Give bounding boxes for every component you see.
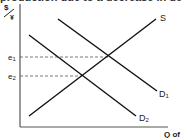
supply-demand-diagram: $ ¥ S D1 D2 e1 e2 Q of [0,0,181,138]
supply-label: S [160,13,166,23]
x-axis-label: Q of [164,130,180,138]
y-axis-label-top: $ [4,3,9,12]
e1-label: e1 [8,53,16,62]
d2-label: D2 [139,113,150,123]
d1-label: D1 [159,89,170,99]
y-axis-label-bottom: ¥ [10,14,14,21]
supply-curve [29,19,156,116]
e2-label: e2 [8,72,16,81]
